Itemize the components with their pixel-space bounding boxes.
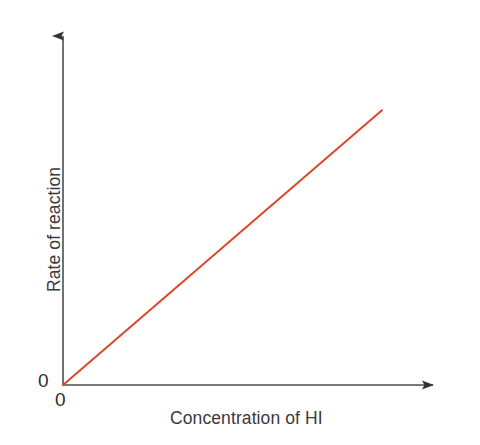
x-axis-label: Concentration of HI [170, 410, 323, 428]
y-axis-origin-tick-label: 0 [38, 371, 49, 390]
chart-figure: Rate of reaction Concentration of HI 0 0 [0, 0, 480, 445]
plot-area [0, 0, 480, 445]
x-axis-origin-tick-label: 0 [55, 390, 66, 409]
data-series-line [63, 110, 382, 385]
y-axis-label: Rate of reaction [46, 167, 64, 292]
